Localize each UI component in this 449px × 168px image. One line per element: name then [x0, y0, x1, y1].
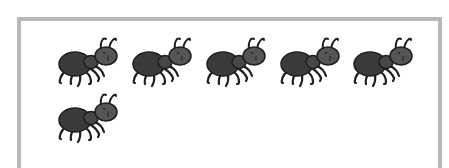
ant-icon	[201, 36, 269, 94]
ant-icon	[348, 36, 416, 94]
ant-icon	[53, 36, 121, 94]
ant-icon	[53, 92, 121, 150]
ant-icon	[275, 36, 343, 94]
ant-icon	[127, 36, 195, 94]
